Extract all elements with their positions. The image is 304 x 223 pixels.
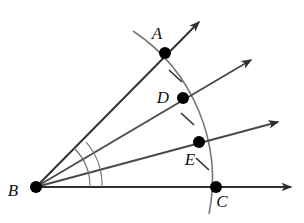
point-group [30,47,222,193]
point-B [30,181,42,193]
label-A: A [151,24,163,43]
point-A [159,47,171,59]
point-D [177,92,189,104]
geometry-canvas: A D E C B [0,0,304,223]
angle-arc-group [74,142,102,187]
label-B: B [8,181,19,200]
geometry-diagram: A D E C B [0,0,304,223]
tick-DE [181,113,194,125]
ray-BE [36,122,278,187]
label-C: C [216,192,228,211]
point-E [193,136,205,148]
angle-arc-ABC [74,148,90,187]
label-E: E [184,150,196,169]
tick-EC [196,158,209,170]
label-D: D [156,88,170,107]
